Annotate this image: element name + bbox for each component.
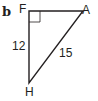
- side-label-fh: 12: [12, 40, 25, 52]
- right-angle-marker: [29, 11, 40, 22]
- vertex-label-h: H: [25, 86, 34, 98]
- vertex-label-a: A: [82, 4, 90, 16]
- side-label-ha: 15: [59, 47, 72, 59]
- triangle-figure: b F A H 12 15: [0, 0, 98, 101]
- vertex-label-f: F: [19, 3, 26, 15]
- part-label: b: [2, 5, 11, 18]
